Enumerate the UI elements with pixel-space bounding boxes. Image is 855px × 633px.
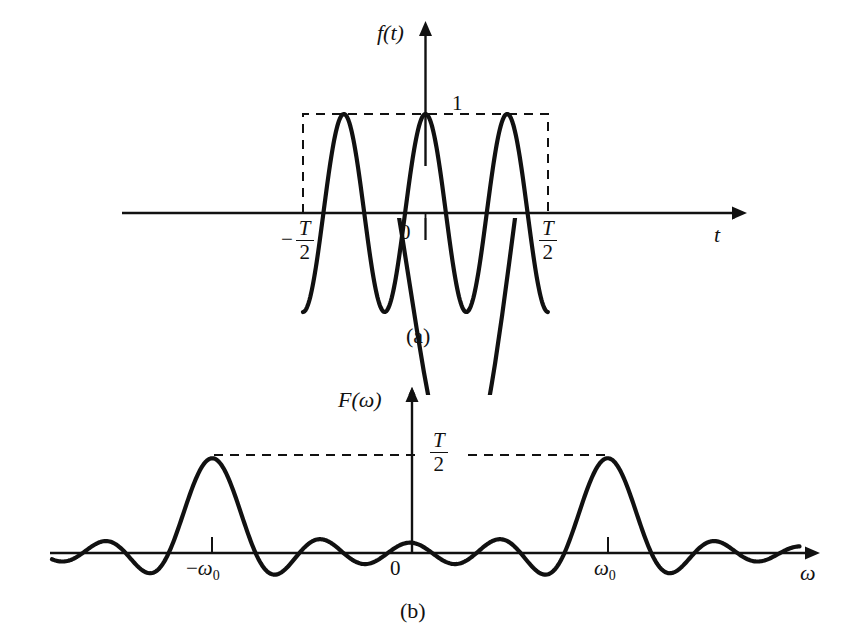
- right-peak-label-b: ω0: [594, 558, 616, 583]
- y-axis-label-b: F(ω): [338, 389, 382, 411]
- x-axis-label-b: ω: [800, 562, 816, 584]
- panel-caption-b: (b): [400, 600, 426, 622]
- right-peak-subscript: 0: [609, 568, 616, 583]
- origin-label-b: 0: [390, 558, 401, 579]
- right-peak-base: ω: [594, 556, 609, 580]
- panel-b-accurate-overlay: [0, 0, 855, 633]
- peak-level-denominator-b: 2: [434, 453, 445, 475]
- figure-root: 1 0 − T 2 T 2 f(t) t (a): [0, 0, 855, 633]
- peak-level-label-b: T 2: [430, 430, 448, 476]
- left-peak-subscript: 0: [213, 568, 220, 583]
- left-peak-label-b: −ω0: [186, 558, 220, 583]
- left-peak-sign: −: [186, 556, 198, 580]
- left-peak-base: ω: [198, 556, 213, 580]
- peak-level-numerator-b: T: [430, 430, 448, 453]
